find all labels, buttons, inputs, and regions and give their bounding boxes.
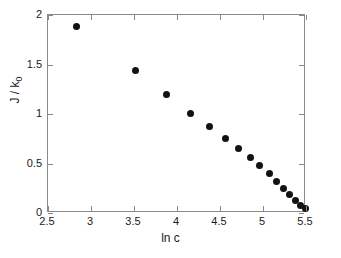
x-tick: [177, 206, 178, 211]
x-tick-top: [220, 15, 221, 20]
data-point: [286, 191, 293, 198]
scatter-series: [48, 15, 304, 211]
x-tick-label: 3.5: [113, 215, 153, 227]
data-point: [206, 123, 213, 130]
x-tick-label: 5.5: [285, 215, 325, 227]
data-point: [247, 154, 254, 161]
y-axis-label: J / k0: [8, 10, 28, 170]
y-tick: [48, 164, 53, 165]
data-point: [132, 67, 139, 74]
x-tick-label: 4.5: [199, 215, 239, 227]
figure: 2.533.544.555.5 00.511.52 ln c J / k0: [0, 0, 341, 258]
data-point: [163, 91, 170, 98]
x-tick-top: [91, 15, 92, 20]
y-tick: [48, 65, 53, 66]
data-point: [235, 145, 242, 152]
x-tick: [220, 206, 221, 211]
x-tick-label: 4: [156, 215, 196, 227]
y-tick-label: 0: [2, 206, 42, 218]
x-tick-label: 3: [70, 215, 110, 227]
x-tick-top: [306, 15, 307, 20]
y-tick: [48, 213, 53, 214]
y-tick-right: [299, 213, 304, 214]
y-tick-right: [299, 114, 304, 115]
x-tick-top: [134, 15, 135, 20]
x-tick: [306, 206, 307, 211]
data-point: [280, 185, 287, 192]
data-point: [256, 162, 263, 169]
y-tick-right: [299, 15, 304, 16]
x-tick: [263, 206, 264, 211]
plot-area: [47, 14, 305, 212]
data-point: [187, 110, 194, 117]
y-tick: [48, 114, 53, 115]
x-tick: [91, 206, 92, 211]
y-tick: [48, 15, 53, 16]
y-tick-right: [299, 164, 304, 165]
x-tick-top: [177, 15, 178, 20]
x-tick-top: [263, 15, 264, 20]
x-axis-label: ln c: [0, 231, 341, 245]
data-point: [73, 23, 80, 30]
x-tick: [134, 206, 135, 211]
y-tick-right: [299, 65, 304, 66]
x-tick: [48, 206, 49, 211]
data-point: [266, 170, 273, 177]
x-tick-label: 5: [242, 215, 282, 227]
data-point: [222, 135, 229, 142]
y-axis-label-base: J / k: [8, 82, 22, 104]
data-point: [273, 178, 280, 185]
y-axis-label-subscript: 0: [14, 76, 24, 81]
